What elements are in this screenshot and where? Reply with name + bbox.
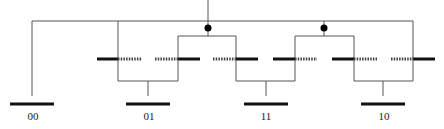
switch-pair-3 [332,59,435,96]
junction-2-bracket [295,36,354,59]
junction-dot-1 [205,25,212,32]
pair-3-bracket [354,59,413,81]
pair-1-bracket [118,59,178,81]
switch-tree-diagram: 00 01 11 10 [0,0,444,129]
junction-1-bracket [178,36,236,59]
output-label-11: 11 [261,110,272,122]
junction-dot-2 [321,25,328,32]
output-label-00: 00 [28,110,40,122]
output-label-10: 10 [379,110,391,122]
switch-pair-2 [213,59,317,96]
pair-2-bracket [236,59,295,81]
switch-pair-1 [97,59,200,96]
output-label-01: 01 [144,110,155,122]
